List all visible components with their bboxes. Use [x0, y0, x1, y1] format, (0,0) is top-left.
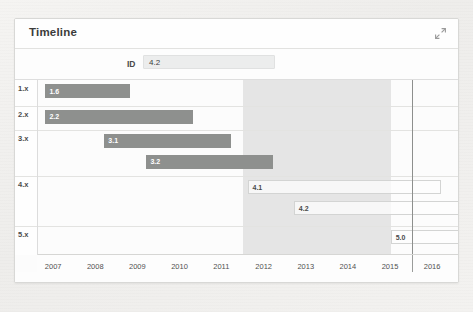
id-filter-input[interactable]: 4.2 [143, 55, 275, 69]
row-separator [15, 106, 37, 107]
x-axis-tick-2016: 2016 [424, 262, 441, 271]
x-axis-tick-2007: 2007 [45, 262, 62, 271]
timeline-bar-label: 4.2 [295, 205, 309, 212]
row-separator [15, 176, 37, 177]
row-separator [15, 226, 37, 227]
timeline-bar[interactable]: 4.2 [294, 201, 458, 215]
row-label-2-x: 2.x [18, 110, 28, 119]
timeline-bar[interactable]: 3.1 [104, 134, 230, 148]
row-separator [37, 106, 458, 107]
x-axis-tick-2015: 2015 [382, 262, 399, 271]
timeline-bar-label: 1.6 [45, 88, 59, 95]
timeline-bar[interactable]: 2.2 [45, 110, 192, 124]
row-label-5-x: 5.x [18, 230, 28, 239]
row-separator [37, 226, 458, 227]
timeline-bar[interactable]: 3.2 [146, 155, 272, 169]
row-label-1-x: 1.x [18, 84, 28, 93]
x-axis-tick-2008: 2008 [87, 262, 104, 271]
row-separator [15, 130, 37, 131]
card-header: Timeline [15, 19, 458, 49]
row-separator [37, 176, 458, 177]
x-axis-tick-2011: 2011 [213, 262, 229, 271]
timeline-bar[interactable]: 5.0 [391, 230, 458, 244]
x-axis-tick-2013: 2013 [297, 262, 314, 271]
page-title: Timeline [29, 26, 77, 38]
axis-footer [15, 272, 458, 282]
filter-bar: ID 4.2 [15, 49, 458, 79]
page-background: Timeline ID 4.2 1.x2.x3.x4.x5.x 1.62.23.… [0, 0, 473, 312]
timeline-bar-label: 2.2 [45, 113, 59, 120]
expand-diagonal-arrow-icon[interactable] [434, 27, 447, 40]
timeline-plot-area[interactable]: 1.62.23.13.24.14.25.0 [37, 80, 458, 255]
timeline-bar-label: 4.1 [249, 184, 263, 191]
timeline-card: Timeline ID 4.2 1.x2.x3.x4.x5.x 1.62.23.… [14, 18, 459, 283]
row-label-4-x: 4.x [18, 180, 28, 189]
id-filter-label: ID [127, 59, 136, 69]
timeline-bar-label: 3.2 [146, 158, 160, 165]
x-axis-tick-2010: 2010 [171, 262, 188, 271]
x-axis-tick-2009: 2009 [129, 262, 146, 271]
row-separator [37, 130, 458, 131]
timeline-bar[interactable]: 1.6 [45, 84, 129, 98]
timeline-bar-label: 3.1 [104, 137, 118, 144]
x-axis-tick-2014: 2014 [340, 262, 357, 271]
row-label-column: 1.x2.x3.x4.x5.x [15, 80, 38, 255]
timeline-bar-label: 5.0 [392, 234, 406, 241]
x-axis-tick-2012: 2012 [255, 262, 272, 271]
marker-line [412, 80, 413, 255]
timeline-chart: 1.x2.x3.x4.x5.x 1.62.23.13.24.14.25.0 20… [15, 79, 458, 282]
row-label-3-x: 3.x [18, 134, 28, 143]
